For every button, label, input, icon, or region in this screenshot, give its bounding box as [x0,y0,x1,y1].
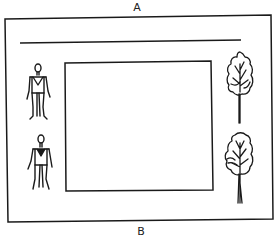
person-icon [28,135,52,189]
center-rectangle [65,61,213,191]
tree-icon [227,52,253,123]
top-line [20,40,241,43]
diagram-canvas [0,0,280,239]
tree-icon [225,133,253,203]
person-icon [27,64,50,119]
